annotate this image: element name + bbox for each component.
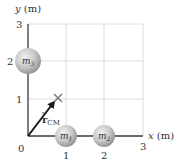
r-cm-label: rCM — [42, 114, 60, 127]
y-tick-3: 3 — [16, 19, 22, 30]
y-tick-2: 2 — [7, 56, 13, 67]
mass-m2: m2 — [93, 125, 115, 147]
mass-m1: m1 — [55, 125, 77, 147]
y-axis-label: y (m) — [14, 3, 41, 14]
origin-label: 0 — [18, 143, 24, 154]
x-axis-label: x (m) — [148, 130, 174, 141]
x-tick-3: 3 — [140, 141, 146, 152]
mass-m3: m3 — [15, 48, 41, 74]
center-of-mass-diagram: x (m) y (m) 0 1 2 3 1 2 3 rCM m3 m1 m2 — [0, 0, 183, 165]
center-of-mass-marker — [54, 94, 62, 102]
x-tick-2: 2 — [101, 150, 107, 161]
x-tick-1: 1 — [63, 150, 69, 161]
y-tick-1: 1 — [16, 94, 22, 105]
